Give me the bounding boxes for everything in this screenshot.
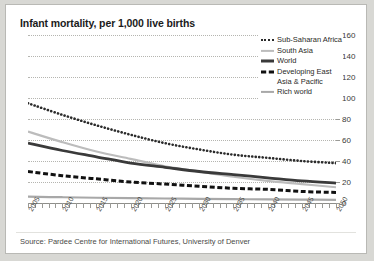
- legend-swatch-icon: [261, 87, 274, 97]
- chart-legend: Sub-Saharan AfricaSouth AsiaWorldDevelop…: [259, 34, 343, 100]
- x-axis-tick: [83, 203, 84, 208]
- x-axis-tick: [322, 203, 323, 208]
- y-axis-tick-label: 100: [342, 94, 355, 103]
- x-axis-tick: [315, 203, 316, 208]
- y-axis-tick: [336, 140, 340, 141]
- x-axis-tick: [55, 203, 56, 208]
- y-axis-tick-label: 0: [342, 199, 346, 208]
- y-axis-tick: [336, 203, 340, 204]
- legend-swatch-icon: [261, 67, 274, 77]
- x-axis-tick: [179, 203, 180, 208]
- y-axis-tick-label: 160: [342, 31, 355, 40]
- x-axis-tick: [117, 203, 118, 208]
- legend-item[interactable]: Asia & Pacific: [261, 77, 341, 87]
- x-axis-tick: [124, 203, 125, 208]
- x-axis-tick: [158, 203, 159, 208]
- legend-item[interactable]: Rich world: [261, 87, 341, 98]
- y-axis-tick: [336, 182, 340, 183]
- x-axis-tick: [144, 203, 145, 208]
- x-axis-tick: [288, 203, 289, 208]
- y-axis-tick-label: 120: [342, 73, 355, 82]
- y-axis-tick: [336, 161, 340, 162]
- legend-item-label: World: [277, 56, 296, 66]
- x-axis-tick: [295, 203, 296, 208]
- legend-swatch-icon: [261, 46, 274, 56]
- legend-item[interactable]: Developing East: [261, 67, 341, 78]
- source-divider: [16, 232, 356, 233]
- x-axis-tick: [76, 203, 77, 208]
- x-axis-tick: [247, 203, 248, 208]
- legend-item-label: Sub-Saharan Africa: [277, 35, 342, 45]
- legend-swatch-icon: [261, 35, 274, 45]
- y-axis-tick-label: 80: [342, 115, 351, 124]
- chart-card: Infant mortality, per 1,000 live births …: [5, 4, 367, 254]
- y-axis-tick-label: 20: [342, 178, 351, 187]
- x-axis-tick: [329, 203, 330, 208]
- y-axis-tick-label: 140: [342, 52, 355, 61]
- x-axis-tick: [42, 203, 43, 208]
- x-axis-tick: [151, 203, 152, 208]
- legend-item-label: Rich world: [277, 87, 312, 97]
- page-title: Infant mortality, per 1,000 live births: [20, 17, 195, 29]
- legend-item[interactable]: Sub-Saharan Africa: [261, 35, 341, 46]
- source-note: Source: Pardee Centre for International …: [20, 237, 250, 246]
- x-axis-tick: [220, 203, 221, 208]
- x-axis-tick: [254, 203, 255, 208]
- legend-swatch-icon: [261, 56, 274, 66]
- y-axis-tick: [336, 119, 340, 120]
- legend-item[interactable]: World: [261, 56, 341, 67]
- x-axis-tick: [90, 203, 91, 208]
- x-axis-tick: [213, 203, 214, 208]
- legend-item-label: Developing East: [277, 67, 332, 77]
- x-axis-tick: [192, 203, 193, 208]
- legend-item[interactable]: South Asia: [261, 46, 341, 57]
- x-axis-tick: [281, 203, 282, 208]
- x-axis-tick: [226, 203, 227, 208]
- x-axis-tick: [261, 203, 262, 208]
- legend-item-label: Asia & Pacific: [277, 77, 323, 87]
- legend-item-label: South Asia: [277, 46, 313, 56]
- y-axis-tick-label: 40: [342, 157, 351, 166]
- x-axis-line: [28, 203, 336, 204]
- y-axis-tick-label: 60: [342, 136, 351, 145]
- x-axis-tick: [185, 203, 186, 208]
- x-axis-tick: [49, 203, 50, 208]
- x-axis-tick: [110, 203, 111, 208]
